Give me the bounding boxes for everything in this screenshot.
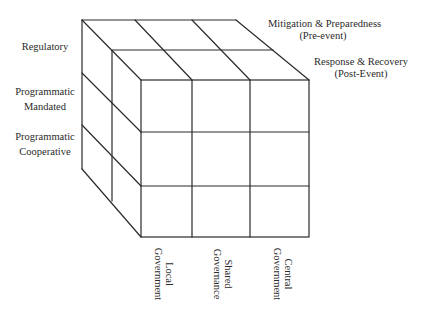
column-label-central-government: Central Government <box>272 246 294 302</box>
cube-diagram: Regulatory Programmatic Mandated Program… <box>0 0 422 310</box>
row-label-programmatic-mandated: Programmatic Mandated <box>10 86 80 113</box>
row-label-programmatic-cooperative: Programmatic Cooperative <box>10 131 80 158</box>
column-label-shared-governance: Shared Governance <box>212 246 234 302</box>
front-face-border <box>141 80 309 237</box>
column-label-local-government: Local Government <box>153 246 175 302</box>
row-label-regulatory: Regulatory <box>14 41 76 53</box>
front-face <box>141 80 309 237</box>
depth-label-mitigation-preparedness: Mitigation & Preparedness (Pre-event) <box>268 18 378 42</box>
depth-label-response-recovery: Response & Recovery (Post-Event) <box>314 56 408 80</box>
left-face <box>82 20 141 237</box>
